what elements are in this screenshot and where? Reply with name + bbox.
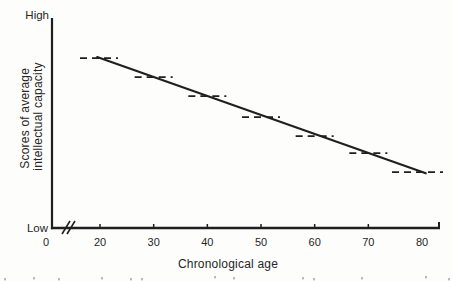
x-tick-label-20: 20 [94,236,106,248]
x-tick-label-50: 50 [255,236,267,248]
y-axis-title-line2: intellectual capacity [31,62,45,170]
cropped-text-remnant-4 [130,278,132,280]
y-axis-title-line1: Scores of average [18,68,32,169]
trend-line [97,57,426,173]
x-tick-label-30: 30 [148,236,160,248]
cropped-text-remnant-7 [233,277,235,279]
cropped-text-remnant-9 [313,278,315,280]
x-tick-label-40: 40 [201,236,213,248]
x-tick-label-80: 80 [416,236,428,248]
cropped-text-remnant-11 [425,276,427,278]
cropped-text-remnant-5 [141,278,143,280]
figure-container: 020304050607080 High Low Scores of avera… [0,0,453,281]
cropped-text-remnant-10 [361,277,363,279]
y-axis-low-label: Low [27,222,49,234]
x-tick-label-70: 70 [362,236,374,248]
cropped-text-remnant-1 [33,277,35,279]
y-axis-title: Scores of average intellectual capacity [18,62,45,170]
cropped-text-remnant-3 [101,277,103,279]
y-axis-high-label: High [25,9,49,21]
x-tick-label-0: 0 [43,236,49,248]
cropped-text-remnant-0 [4,278,6,280]
intellectual-capacity-vs-age-chart: 020304050607080 High Low Scores of avera… [0,0,453,281]
x-tick-label-60: 60 [309,236,321,248]
cropped-text-remnant-2 [58,278,60,280]
plot-area: 020304050607080 [4,18,450,280]
x-axis-title: Chronological age [178,257,278,271]
cropped-text-remnant-6 [214,276,216,278]
cropped-text-remnant-12 [448,278,450,280]
cropped-text-remnant-8 [302,277,304,279]
